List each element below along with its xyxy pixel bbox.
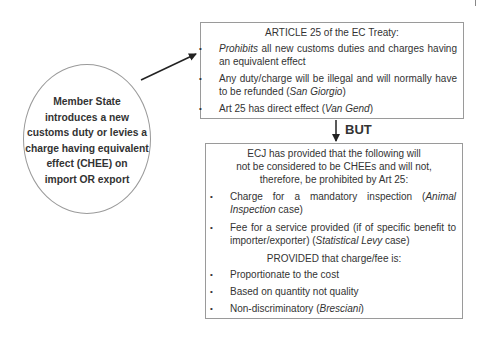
list-item: Non-discriminatory (Bresciani) <box>206 302 462 315</box>
article-25-title: ARTICLE 25 of the EC Treaty: <box>201 26 463 39</box>
arrow-to-article <box>141 54 196 80</box>
item-text: ) <box>361 303 364 314</box>
ellipse-line: customs duty or levies a <box>23 125 151 141</box>
item-text: Based on quantity not quality <box>230 286 358 297</box>
ellipse-line: introduces a new <box>23 110 151 126</box>
ellipse-line: import OR export <box>23 172 151 188</box>
ecj-exceptions-box: ECJ has provided that the following will… <box>205 143 463 319</box>
article-25-box: ARTICLE 25 of the EC Treaty: Prohibits a… <box>200 22 464 119</box>
item-text: case) <box>382 235 409 246</box>
item-text: ) <box>342 86 345 97</box>
list-item: Based on quantity not quality <box>206 285 462 298</box>
article-25-list: Prohibits all new customs duties and cha… <box>201 42 463 115</box>
list-item: Art 25 has direct effect (Van Gend) <box>201 102 463 115</box>
item-text: case) <box>276 204 303 215</box>
list-item: Fee for a service provided (if of specif… <box>206 221 462 247</box>
item-text: Charge for a mandatory inspection ( <box>230 191 425 202</box>
conditions-list: Proportionate to the cost Based on quant… <box>206 268 462 315</box>
item-text: Proportionate to the cost <box>230 269 339 280</box>
provided-label: PROVIDED that charge/fee is: <box>206 252 462 265</box>
title-line: therefore, be prohibited by Art 25: <box>206 173 462 186</box>
ellipse-line: effect (CHEE) on <box>23 156 151 172</box>
title-line: ECJ has provided that the following will <box>206 147 462 160</box>
title-line: not be considered to be CHEEs and will n… <box>206 160 462 173</box>
ecj-title: ECJ has provided that the following will… <box>206 147 462 186</box>
exceptions-list: Charge for a mandatory inspection (Anima… <box>206 190 462 247</box>
list-item: Prohibits all new customs duties and cha… <box>201 42 463 68</box>
but-label: BUT <box>345 122 372 137</box>
item-text: ) <box>370 103 373 114</box>
case-name: Statistical Levy <box>316 235 383 246</box>
emphasis: Prohibits <box>219 43 258 54</box>
item-text: Art 25 has direct effect ( <box>219 103 325 114</box>
ellipse-line: charge having equivalent <box>23 141 151 157</box>
case-name: Van Gend <box>325 103 370 114</box>
case-name: Bresciani <box>319 303 360 314</box>
list-item: Charge for a mandatory inspection (Anima… <box>206 190 462 216</box>
case-name: San Giorgio <box>290 86 343 97</box>
member-state-text: Member State introduces a new customs du… <box>23 94 151 187</box>
ellipse-line: Member State <box>23 94 151 110</box>
list-item: Proportionate to the cost <box>206 268 462 281</box>
list-item: Any duty/charge will be illegal and will… <box>201 72 463 98</box>
item-text: Non-discriminatory ( <box>230 303 319 314</box>
